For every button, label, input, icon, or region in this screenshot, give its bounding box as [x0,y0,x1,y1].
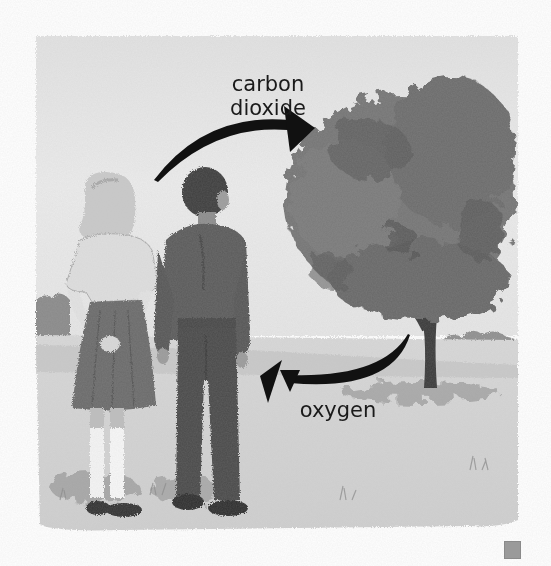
carbon-dioxide-label-line1: carbon [218,72,318,96]
carbon-dioxide-label: carbon dioxide [218,72,318,120]
carbon-dioxide-label-line2: dioxide [218,96,318,120]
oxygen-label: oxygen [298,398,378,422]
illustration: carbon dioxide oxygen [0,0,551,566]
corner-marker-square [504,541,521,559]
